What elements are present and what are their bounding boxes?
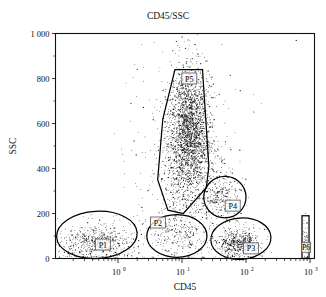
chart-title: CD45/SSC — [147, 11, 189, 21]
gate-label-p2[interactable]: P2 — [150, 217, 165, 228]
gate-label-text: P1 — [99, 241, 107, 250]
gate-label-text: P3 — [247, 244, 255, 253]
x-tick-label: 10 — [176, 267, 185, 277]
x-axis-label: CD45 — [174, 282, 197, 292]
x-tick-exponent: 0 — [123, 266, 126, 272]
x-tick-label: 10 — [112, 267, 121, 277]
gate-label-p1[interactable]: P1 — [95, 239, 110, 250]
y-tick-label: 200 — [37, 209, 50, 219]
gate-label-text: P4 — [228, 202, 236, 211]
gate-label-p3[interactable]: P3 — [244, 243, 259, 254]
x-axis-ticks: 100101102103 — [73, 259, 318, 277]
gate-p1[interactable] — [55, 209, 138, 260]
y-tick-label: 800 — [37, 74, 50, 84]
y-axis-label: SSC — [8, 138, 18, 155]
gate-label-text: P5 — [185, 75, 193, 84]
gate-p5[interactable] — [158, 70, 209, 214]
x-tick-label: 10 — [240, 267, 249, 277]
scatter-plot-canvas: CD45/SSC 1 0008006004002000 100101102103… — [0, 0, 326, 297]
x-tick-exponent: 1 — [187, 266, 190, 272]
gate-label-text: P6 — [302, 243, 310, 252]
y-tick-label: 600 — [37, 119, 50, 129]
x-tick-exponent: 3 — [315, 266, 318, 272]
gate-label-p6[interactable]: P6 — [302, 242, 311, 252]
x-tick-exponent: 2 — [251, 266, 254, 272]
y-axis-ticks: 1 0008006004002000 — [30, 29, 55, 264]
gate-label-group[interactable]: P1P2P3P4P5P6 — [95, 73, 310, 254]
gate-label-p5[interactable]: P5 — [182, 73, 197, 84]
y-tick-label: 400 — [37, 164, 50, 174]
data-point-cloud — [56, 34, 308, 258]
x-tick-label: 10 — [304, 267, 313, 277]
gate-label-p4[interactable]: P4 — [225, 200, 240, 211]
flow-cytometry-figure: CD45/SSC 1 0008006004002000 100101102103… — [0, 0, 326, 297]
gate-label-text: P2 — [154, 219, 162, 228]
y-tick-label: 1 000 — [30, 29, 49, 39]
y-tick-label: 0 — [45, 254, 49, 264]
